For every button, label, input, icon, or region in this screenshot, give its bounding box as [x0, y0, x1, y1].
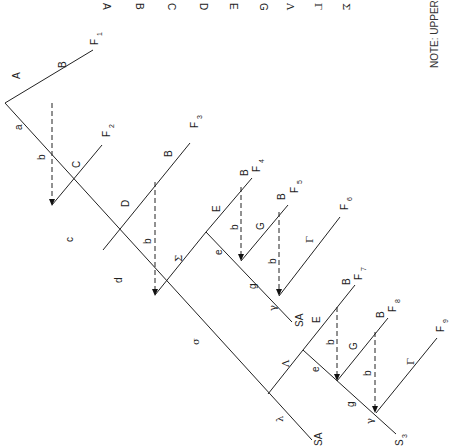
label-Gamma-2: Γ	[405, 358, 416, 365]
label-B-4: B	[239, 169, 250, 176]
label-b: b	[325, 339, 336, 345]
label-B-8: B	[375, 311, 386, 318]
end-SA-main: SA	[313, 432, 324, 446]
legend-E: E	[228, 3, 239, 10]
branch-E-F4	[206, 178, 252, 232]
svg-text:2: 2	[108, 124, 115, 128]
legend-A: A	[101, 3, 112, 10]
legend-Sigma: Σ	[341, 3, 352, 10]
branch-D-F3	[103, 143, 190, 250]
svg-text:8: 8	[394, 299, 401, 303]
note-text: NOTE: UPPER-	[429, 0, 440, 68]
label-b: b	[267, 258, 278, 264]
svg-text:S: S	[394, 439, 405, 446]
branch-Lambda	[268, 350, 303, 394]
label-Sigma: Σ	[173, 255, 184, 262]
end-F1: F 1	[89, 32, 103, 45]
label-B-5: B	[276, 193, 287, 200]
legend-D: D	[198, 3, 209, 10]
sub-trunk-2	[303, 350, 396, 434]
end-F3: F 3	[189, 115, 203, 128]
branch-Gamma-F6	[279, 217, 340, 296]
label-D: D	[120, 200, 131, 207]
legend-Gamma: Γ	[313, 3, 324, 10]
svg-text:F: F	[189, 122, 200, 128]
svg-text:5: 5	[296, 180, 303, 184]
end-S3: S 3	[394, 434, 408, 446]
svg-text:F: F	[387, 306, 398, 312]
end-F9: F 9	[435, 319, 449, 332]
svg-text:F: F	[353, 274, 364, 280]
svg-text:F: F	[101, 131, 112, 137]
trunk-label-c: c	[64, 237, 75, 242]
trunk-label-sigma: σ	[190, 338, 201, 345]
svg-text:F: F	[251, 166, 262, 172]
end-F6: F 6	[339, 197, 353, 210]
end-F5: F 5	[289, 180, 303, 193]
trunk-label-lambda: λ	[274, 415, 285, 422]
synthesis-tree-diagram: A B C D E G Λ Γ Σ NOTE: UPPER- A B F 1 b…	[0, 0, 453, 447]
label-b: b	[142, 238, 153, 244]
end-F4: F 4	[251, 159, 265, 172]
branch-C-F2	[52, 145, 102, 205]
svg-text:7: 7	[360, 267, 367, 271]
label-Lambda: Λ	[280, 359, 291, 368]
sub-trunk-label-e: e	[213, 249, 224, 255]
sub-trunk-label-e-2: e	[310, 366, 321, 372]
legend-G: G	[258, 3, 269, 11]
label-b: b	[229, 224, 240, 230]
svg-text:6: 6	[346, 197, 353, 201]
end-F2: F 2	[101, 124, 115, 137]
label-B-3: B	[163, 150, 174, 157]
label-A: A	[11, 72, 22, 79]
svg-text:F: F	[289, 187, 300, 193]
sub-trunk-label-g-2: g	[345, 401, 356, 407]
legend-Lambda: Λ	[285, 2, 296, 11]
svg-text:4: 4	[258, 159, 265, 163]
main-trunk	[5, 103, 312, 440]
sub-trunk-label-g: g	[247, 283, 258, 289]
arrowhead-icon	[238, 254, 244, 261]
label-B-1: B	[57, 61, 68, 68]
label-E-2: E	[311, 316, 322, 323]
branch-G-F5	[241, 205, 288, 261]
svg-text:F: F	[89, 39, 100, 45]
sub-trunk-label-gamma: γ	[267, 305, 278, 311]
label-b: b	[36, 154, 47, 160]
svg-text:3: 3	[196, 115, 203, 119]
label-G-2: G	[348, 342, 359, 350]
svg-text:3: 3	[401, 434, 408, 438]
trunk-label-a: a	[13, 124, 24, 130]
trunk-label-d: d	[113, 277, 124, 283]
label-Gamma: Γ	[304, 236, 315, 243]
label-B-7: B	[341, 278, 352, 285]
end-SA-1: SA	[294, 313, 305, 327]
label-C: C	[71, 161, 82, 168]
label-G: G	[255, 222, 266, 230]
legend-C: C	[166, 3, 177, 10]
end-F8: F 8	[387, 299, 401, 312]
svg-text:9: 9	[442, 319, 449, 323]
legend-letters: A B C D E G Λ Γ Σ	[101, 2, 352, 11]
branch-Gamma-F9	[376, 338, 437, 413]
end-F7: F 7	[353, 267, 367, 280]
legend-B: B	[134, 3, 145, 10]
svg-text:F: F	[339, 204, 350, 210]
svg-text:1: 1	[96, 32, 103, 36]
sub-trunk-label-gamma-2: γ	[364, 418, 375, 424]
label-b: b	[362, 370, 373, 376]
branch-Sigma	[155, 232, 206, 295]
svg-text:F: F	[435, 326, 446, 332]
arrowhead-icon	[334, 374, 340, 381]
label-E: E	[211, 205, 222, 212]
